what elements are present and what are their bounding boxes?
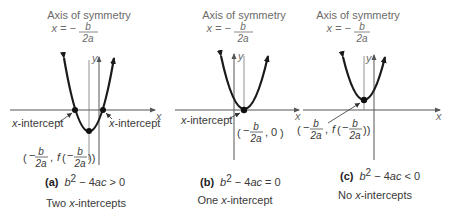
svg-text:−: − <box>342 121 348 133</box>
svg-text:2a: 2a <box>249 133 262 144</box>
svg-text:(: ( <box>237 127 241 139</box>
caption-text: One x-intercept <box>197 194 272 206</box>
svg-text:(: ( <box>62 152 66 164</box>
svg-text:b: b <box>77 146 83 157</box>
svg-text:2a: 2a <box>348 130 361 141</box>
svg-text:): ) <box>280 127 284 139</box>
parabola-curve <box>221 56 268 109</box>
axis-equation: x = − b 2a <box>51 21 98 44</box>
vertex-label: ( − b 2a , 0 ) <box>237 121 284 144</box>
panel-b: Axis of symmetry x = − b 2a y x x-interc… <box>175 9 301 206</box>
svg-text:2a: 2a <box>355 33 368 44</box>
svg-text:b: b <box>240 21 246 32</box>
panel-c: Axis of symmetry x = − b 2a y x ( − b 2a… <box>297 9 442 201</box>
x-intercept-label: x-intercept <box>180 114 232 126</box>
svg-text:f: f <box>57 151 61 163</box>
svg-text:,: , <box>325 123 328 135</box>
svg-text:)): )) <box>363 124 370 136</box>
svg-text:,: , <box>50 151 53 163</box>
x-intercept-point-left <box>72 107 78 113</box>
svg-text:(: ( <box>337 124 341 136</box>
svg-text:b: b <box>352 118 358 129</box>
svg-text:b: b <box>38 146 44 157</box>
vertex-point <box>361 97 367 103</box>
x-axis-label: x <box>435 110 442 122</box>
caption-condition: (b)b2 − 4ac = 0 <box>200 173 281 188</box>
axis-equation: x = − b 2a <box>326 21 370 44</box>
caption-text: Two x-intercepts <box>46 197 127 209</box>
vertex-intercept-point <box>241 107 247 113</box>
svg-text:2a: 2a <box>309 130 322 141</box>
svg-text:b: b <box>253 121 259 132</box>
axis-of-symmetry-title: Axis of symmetry <box>202 9 286 21</box>
caption-text: No x-intercepts <box>338 189 412 201</box>
svg-text:(: ( <box>23 152 27 164</box>
svg-text:, 0: , 0 <box>265 126 277 138</box>
axis-equation: x = − b 2a <box>206 21 253 44</box>
vertex-point <box>86 128 92 134</box>
svg-text:x = −: x = − <box>206 22 232 34</box>
svg-text:b: b <box>85 21 91 32</box>
axis-of-symmetry-title: Axis of symmetry <box>47 9 131 21</box>
svg-text:2a: 2a <box>81 33 94 44</box>
caption-condition: (c)b2 − 4ac < 0 <box>340 167 420 182</box>
vertex-label: ( − b 2a , f ( − b 2a )) <box>297 118 370 141</box>
axis-of-symmetry-title: Axis of symmetry <box>316 9 400 21</box>
svg-text:2a: 2a <box>34 158 47 169</box>
svg-text:x = −: x = − <box>51 22 77 34</box>
x-axis-label: x <box>294 110 301 122</box>
y-axis-label: y <box>365 52 373 64</box>
vertex-label: ( − b 2a , f ( − b 2a )) <box>23 146 95 169</box>
svg-text:−: − <box>303 121 309 133</box>
svg-text:−: − <box>243 124 249 136</box>
parabola-diagram: Axis of symmetry x = − b 2a y x x-interc… <box>0 0 452 215</box>
svg-text:f: f <box>332 123 336 135</box>
svg-text:2a: 2a <box>73 158 86 169</box>
svg-text:x = −: x = − <box>326 22 352 34</box>
svg-text:−: − <box>67 149 73 161</box>
y-axis-label: y <box>91 52 99 64</box>
svg-text:b: b <box>359 21 365 32</box>
caption-condition: (a)b2 − 4ac > 0 <box>45 173 125 188</box>
x-intercept-point-right <box>100 107 106 113</box>
panel-a: Axis of symmetry x = − b 2a y x x-interc… <box>10 9 162 209</box>
svg-text:2a: 2a <box>236 33 249 44</box>
x-intercept-label-left: x-intercept <box>11 117 63 129</box>
x-intercept-label-right: x-intercept <box>108 117 160 129</box>
svg-text:)): )) <box>88 152 95 164</box>
svg-text:b: b <box>313 118 319 129</box>
svg-text:(: ( <box>297 124 301 136</box>
